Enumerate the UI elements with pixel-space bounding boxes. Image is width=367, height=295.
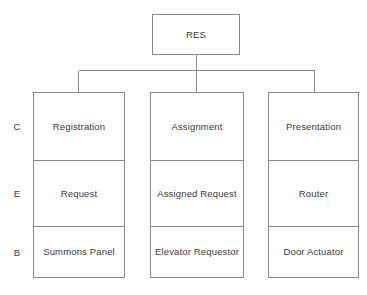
row-label-e: E [8, 188, 26, 199]
registration-column: Registration Request Summons Panel [33, 92, 125, 278]
cell-presentation-label: Presentation [286, 121, 341, 132]
cell-request[interactable]: Request [34, 160, 124, 225]
cell-registration[interactable]: Registration [34, 93, 124, 160]
cell-router-label: Router [299, 188, 328, 199]
cell-request-label: Request [61, 188, 97, 199]
res-root-node[interactable]: RES [152, 14, 240, 55]
cell-assignment[interactable]: Assignment [151, 93, 243, 160]
cell-door-actuator[interactable]: Door Actuator [269, 226, 358, 277]
cell-door-actuator-label: Door Actuator [283, 246, 343, 257]
cell-elevator-requestor-label: Elevator Requestor [155, 246, 239, 257]
cell-assigned-request-label: Assigned Request [157, 188, 237, 199]
assignment-column: Assignment Assigned Request Elevator Req… [150, 92, 244, 278]
presentation-column: Presentation Router Door Actuator [268, 92, 359, 278]
cell-summons-panel-label: Summons Panel [43, 246, 115, 257]
cell-router[interactable]: Router [269, 160, 358, 225]
cell-presentation[interactable]: Presentation [269, 93, 358, 160]
res-root-node-label: RES [186, 29, 206, 40]
row-label-c: C [8, 121, 26, 132]
cell-registration-label: Registration [53, 121, 106, 132]
row-label-b: B [8, 247, 26, 258]
cell-assignment-label: Assignment [171, 121, 222, 132]
cell-summons-panel[interactable]: Summons Panel [34, 226, 124, 277]
cell-elevator-requestor[interactable]: Elevator Requestor [151, 226, 243, 277]
hierarchy-diagram: RES C E B Registration Request Summons P… [0, 0, 367, 295]
cell-assigned-request[interactable]: Assigned Request [151, 160, 243, 225]
